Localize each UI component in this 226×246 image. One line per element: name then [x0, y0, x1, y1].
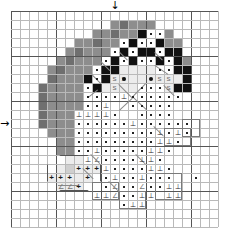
- small-dot-stitch: [141, 141, 143, 143]
- grid-line-horizontal: [11, 146, 218, 147]
- center-marker-left-arrow: →: [0, 118, 9, 129]
- small-dot-stitch: [168, 150, 170, 152]
- grid-line-horizontal: [11, 218, 218, 219]
- stitch-cell: [110, 38, 119, 47]
- small-dot-stitch: [114, 51, 116, 53]
- stitch-cell: [47, 110, 56, 119]
- small-dot-stitch: [168, 177, 170, 179]
- stitch-cell: [56, 56, 65, 65]
- small-dot-stitch: [141, 96, 143, 98]
- stitch-cell: [128, 20, 137, 29]
- stitch-cell: [101, 164, 110, 173]
- stitch-cell: [65, 56, 74, 65]
- stitch-cell: [83, 38, 92, 47]
- stitch-cell: [164, 47, 173, 56]
- stitch-cell: [110, 29, 119, 38]
- stitch-cell: [128, 119, 137, 128]
- small-dot-stitch: [96, 96, 98, 98]
- small-dot-stitch: [123, 159, 125, 161]
- small-dot-stitch: [168, 105, 170, 107]
- stitch-cell: [65, 128, 74, 137]
- small-dot-stitch: [141, 114, 143, 116]
- small-dot-stitch: [159, 159, 161, 161]
- small-dot-stitch: [87, 141, 89, 143]
- small-dot-stitch: [114, 96, 116, 98]
- small-dot-stitch: [150, 60, 152, 62]
- small-dot-stitch: [114, 132, 116, 134]
- small-dot-stitch: [96, 69, 98, 71]
- small-dot-stitch: [114, 141, 116, 143]
- stitch-cell: [56, 119, 65, 128]
- stitch-cell: [146, 20, 155, 29]
- small-dot-stitch: [168, 123, 170, 125]
- small-dot-stitch: [123, 132, 125, 134]
- stitch-cell: [110, 56, 119, 65]
- stitch-cell: [119, 65, 128, 74]
- small-dot-stitch: [78, 150, 80, 152]
- small-dot-stitch: [150, 96, 152, 98]
- small-dot-stitch: [87, 96, 89, 98]
- cross-stitch-chart-page: ↓ → SSSSSS⊥⊥⊥⊥⊥⊥⊥⊥⊥⊥⊥⊥⊥⊥⊥∠⊥⊥+++⊥⊥⊥++++⊥⊥…: [0, 0, 226, 246]
- grid-line-horizontal: [11, 47, 218, 48]
- grid-line-horizontal: [11, 20, 218, 21]
- stitch-cell: [47, 101, 56, 110]
- small-dot-stitch: [87, 123, 89, 125]
- small-dot-stitch: [132, 105, 134, 107]
- small-dot-stitch: [132, 186, 134, 188]
- small-dot-stitch: [141, 123, 143, 125]
- stitch-cell: [65, 146, 74, 155]
- stitch-cell: [110, 65, 119, 74]
- stitch-cell: [128, 65, 137, 74]
- stitch-cell: [38, 119, 47, 128]
- small-dot-stitch: [105, 60, 107, 62]
- stitch-cell: [110, 173, 119, 182]
- stitch-cell: [173, 83, 182, 92]
- stitch-cell: [137, 173, 146, 182]
- small-dot-stitch: [159, 69, 161, 71]
- stitch-cell: [56, 110, 65, 119]
- grid-line-horizontal: [11, 110, 218, 111]
- small-dot-stitch: [150, 123, 152, 125]
- stitch-cell: [56, 65, 65, 74]
- small-dot-stitch: [177, 96, 179, 98]
- grid-line-horizontal: [11, 56, 218, 57]
- stitch-cell: [128, 74, 137, 83]
- small-dot-stitch: [150, 132, 152, 134]
- small-dot-stitch: [114, 150, 116, 152]
- small-dot-stitch: [132, 177, 134, 179]
- stitch-cell: [110, 101, 119, 110]
- small-dot-stitch: [168, 132, 170, 134]
- small-dot-stitch: [87, 132, 89, 134]
- small-dot-stitch: [150, 186, 152, 188]
- stitch-cell: [47, 128, 56, 137]
- stitch-cell: [92, 38, 101, 47]
- stitch-cell: [47, 119, 56, 128]
- stitch-cell: [182, 83, 191, 92]
- stitch-cell: [74, 83, 83, 92]
- stitch-cell: [110, 74, 119, 83]
- stitch-cell: [119, 29, 128, 38]
- small-dot-stitch: [168, 114, 170, 116]
- small-dot-stitch: [78, 141, 80, 143]
- small-dot-stitch: [78, 132, 80, 134]
- small-dot-stitch: [123, 141, 125, 143]
- small-dot-stitch: [141, 105, 143, 107]
- small-dot-stitch: [96, 132, 98, 134]
- stitch-cell: [101, 101, 110, 110]
- stitch-cell: [173, 38, 182, 47]
- stitch-cell: [65, 101, 74, 110]
- stitch-cell: [65, 137, 74, 146]
- small-dot-stitch: [150, 105, 152, 107]
- small-dot-stitch: [141, 150, 143, 152]
- pattern-grid[interactable]: SSSSSS⊥⊥⊥⊥⊥⊥⊥⊥⊥⊥⊥⊥⊥⊥⊥∠⊥⊥+++⊥⊥⊥++++⊥⊥∠∠+∠…: [11, 11, 218, 227]
- small-dot-stitch: [150, 87, 152, 89]
- small-dot-stitch: [96, 123, 98, 125]
- stitch-cell: [137, 182, 146, 191]
- small-dot-stitch: [123, 204, 125, 206]
- stitch-cell: [65, 119, 74, 128]
- stitch-cell: [146, 191, 155, 200]
- grid-line-horizontal: [11, 155, 218, 156]
- stitch-cell: [119, 110, 128, 119]
- grid-line-horizontal: [11, 227, 218, 228]
- stitch-cell: [155, 164, 164, 173]
